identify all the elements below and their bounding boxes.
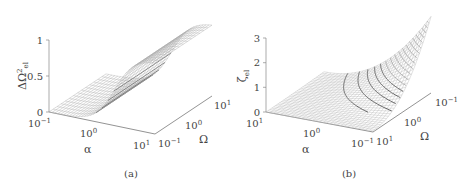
omega-tick-b-3: 10−1 bbox=[435, 96, 458, 108]
omega-axis-label-a: Ω bbox=[199, 133, 208, 146]
omega-tick-b-1: 101 bbox=[376, 135, 393, 147]
surface-plot-b: 3 2 1 0 ζel 101 100 10−1 α 101 100 10−1 … bbox=[232, 0, 464, 188]
z-tick-1: 1 bbox=[254, 82, 260, 93]
alpha-tick-a-3: 101 bbox=[133, 139, 150, 151]
omega-tick-a-1: 10−1 bbox=[158, 137, 181, 149]
omega-tick-b-2: 100 bbox=[404, 116, 421, 128]
z-axis-label-b: ζel bbox=[236, 69, 251, 82]
omega-tick-a-2: 100 bbox=[185, 119, 202, 131]
alpha-axis-label-a: α bbox=[84, 143, 92, 156]
alpha-tick-a-1: 10−1 bbox=[28, 117, 51, 129]
z-tick-3: 3 bbox=[254, 33, 260, 44]
z-tick-2: 2 bbox=[254, 57, 260, 68]
alpha-tick-b-2: 100 bbox=[303, 127, 320, 139]
surface-plot-a: 1 0.5 0 ΔΩ2el 10−1 100 101 α 10−1 100 10… bbox=[0, 0, 232, 188]
svg-text:ΔΩ2el: ΔΩ2el bbox=[16, 61, 30, 90]
svg-text:ζel: ζel bbox=[236, 69, 251, 82]
surface-mesh-b bbox=[266, 16, 431, 130]
surface-mesh-a bbox=[49, 25, 212, 117]
alpha-tick-b-1: 101 bbox=[246, 117, 263, 129]
chart-panel-a: 1 0.5 0 ΔΩ2el 10−1 100 101 α 10−1 100 10… bbox=[0, 0, 232, 188]
z-tick-0-5: 0.5 bbox=[27, 71, 43, 82]
alpha-tick-a-2: 100 bbox=[80, 127, 97, 139]
omega-tick-a-3: 101 bbox=[214, 99, 231, 111]
omega-axis-label-b: Ω bbox=[420, 130, 429, 143]
caption-a: (a) bbox=[124, 168, 138, 179]
caption-b: (b) bbox=[342, 168, 356, 179]
alpha-tick-b-3: 10−1 bbox=[351, 137, 374, 149]
chart-panel-b: 3 2 1 0 ζel 101 100 10−1 α 101 100 10−1 … bbox=[232, 0, 464, 188]
alpha-axis-label-b: α bbox=[302, 143, 310, 156]
z-tick-1: 1 bbox=[37, 35, 43, 46]
z-axis-label-a: ΔΩ2el bbox=[16, 61, 30, 90]
